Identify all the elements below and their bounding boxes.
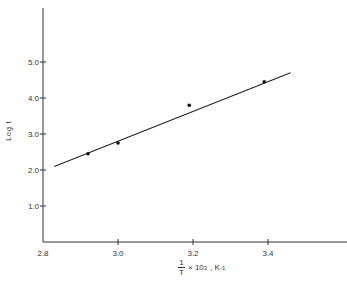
x-axis-title-unit: , K — [210, 263, 220, 272]
x-tick-label: 3.0 — [112, 249, 124, 258]
chart: 1.02.03.04.05.02.83.03.23.4 — [0, 0, 347, 282]
y-tick-label: 3.0 — [28, 130, 40, 139]
x-axis-title: 1 T × 103, K-1 — [178, 258, 225, 277]
y-tick-label: 2.0 — [28, 166, 40, 175]
y-axis-title: Log t — [5, 120, 12, 141]
fit-line — [54, 73, 290, 167]
x-tick-label: 3.4 — [262, 249, 274, 258]
x-axis-title-exponent: 3 — [204, 265, 207, 271]
y-tick-label: 1.0 — [28, 202, 40, 211]
data-point — [262, 80, 266, 84]
data-point — [86, 152, 90, 156]
x-axis-title-denominator: T — [179, 268, 184, 277]
x-axis-title-unit-exponent: -1 — [220, 265, 225, 271]
y-tick-label: 5.0 — [28, 58, 40, 67]
x-axis-title-multiplier: × 10 — [188, 263, 204, 272]
data-point — [116, 141, 120, 145]
data-point — [187, 103, 191, 107]
y-tick-label: 4.0 — [28, 94, 40, 103]
x-tick-label: 3.2 — [187, 249, 199, 258]
x-axis-title-numerator: 1 — [179, 258, 183, 267]
x-tick-label: 2.8 — [37, 249, 49, 258]
